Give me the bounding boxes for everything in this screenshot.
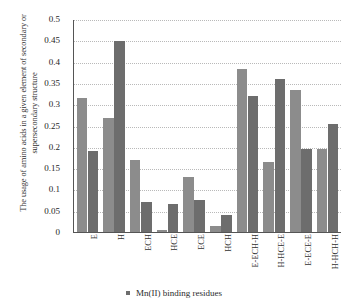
y-tick-label: 0.25: [26, 122, 60, 131]
x-tick-labels: EHECHHCEECEHCHE-ECH-HH-HCE-EE-ECE-EH-HCH…: [74, 234, 341, 286]
bar: [88, 151, 99, 232]
x-tick-label: E-ECH-H: [248, 234, 257, 268]
y-tick-label: 0.1: [26, 185, 60, 194]
bar-group: [288, 20, 315, 232]
x-axis-line: [73, 232, 341, 233]
x-tick-label: H-HCE-E: [274, 234, 283, 268]
x-tick-label: HCE: [167, 234, 176, 251]
y-tick-label: 0.5: [26, 15, 60, 24]
bar: [130, 160, 141, 232]
bar-group: [234, 20, 261, 232]
y-tick-label: 0.15: [26, 164, 60, 173]
bar: [328, 124, 339, 232]
bar: [77, 98, 88, 232]
bar: [290, 90, 301, 232]
y-tick-label: 0.45: [26, 36, 60, 45]
bar: [263, 162, 274, 232]
bar-group: [101, 20, 128, 232]
bar: [168, 204, 179, 232]
bar: [183, 177, 194, 232]
bar: [248, 96, 259, 232]
bar-group: [127, 20, 154, 232]
x-tick-label: H: [114, 234, 123, 240]
bar: [237, 69, 248, 232]
y-tick-label: 0.2: [26, 143, 60, 152]
x-tick-label: E: [87, 234, 96, 239]
x-tick-label: H-HCH-H: [328, 234, 337, 269]
x-tick-label: ECE: [194, 234, 203, 250]
y-tick-label: 0: [26, 228, 60, 237]
plot-area: 00.050.10.150.20.250.30.350.40.450.5: [73, 20, 341, 233]
bar: [221, 215, 232, 232]
bars-layer: [74, 20, 341, 232]
bar: [317, 149, 328, 232]
bar-group: [181, 20, 208, 232]
bar: [275, 79, 286, 232]
x-tick-label: ECH: [141, 234, 150, 251]
bar: [301, 149, 312, 232]
y-tick-label: 0.35: [26, 79, 60, 88]
legend-item-mn-binding-residues: Mn(II) binding residues: [126, 288, 222, 298]
bar-group: [154, 20, 181, 232]
bar-group: [261, 20, 288, 232]
x-tick-label: E-ECE-E: [301, 234, 310, 266]
x-tick-label: HCH: [221, 234, 230, 252]
bar-group: [314, 20, 341, 232]
bar: [103, 118, 114, 232]
bar: [210, 226, 221, 232]
bar: [157, 230, 168, 232]
bar: [194, 200, 205, 232]
legend-swatch-icon: [126, 291, 130, 295]
y-tick-label: 0.05: [26, 207, 60, 216]
y-tick-label: 0.4: [26, 58, 60, 67]
bar-chart-figure: The usage of amino acids in a given elem…: [0, 0, 348, 303]
bar: [141, 202, 152, 232]
bar-group: [74, 20, 101, 232]
legend-label: Mn(II) binding residues: [136, 288, 222, 298]
bar: [114, 41, 125, 232]
chart-legend: Mn(II) binding residues: [0, 288, 348, 298]
y-tick-label: 0.3: [26, 100, 60, 109]
bar-group: [208, 20, 235, 232]
